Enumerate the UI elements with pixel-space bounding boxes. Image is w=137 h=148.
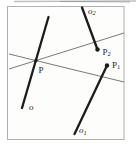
scan-artifact-line-dark: [60, 2, 130, 3]
figure-canvas: P P1 P2 o o1 o2: [0, 0, 137, 148]
label-point-p: P: [39, 65, 44, 75]
point-p2: [95, 47, 99, 51]
figure-frame: [8, 7, 125, 140]
label-segment-o: o: [29, 102, 34, 112]
point-p1: [105, 63, 109, 67]
geometry-figure: P P1 P2 o o1 o2: [0, 0, 137, 148]
point-p: [34, 59, 37, 62]
